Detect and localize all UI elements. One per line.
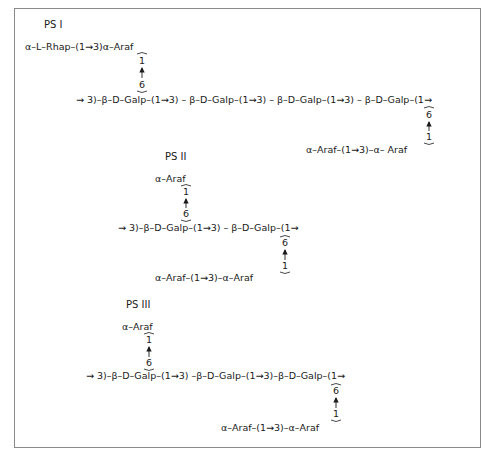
ps2-upper-from-position: 1 [183,186,189,197]
ps3-lower-from-position: 1 [333,408,339,419]
ps3-title: PS III [126,299,150,310]
ps3-lower-linkage: 6 1 [331,384,341,422]
bracket-icon [424,143,434,145]
ps1-upper-to-position: 6 [139,79,145,90]
ps3-upper-linkage: 1 6 [144,333,154,371]
structure-ps1: PS I α–L–Rhap–(1→3)α–Araf 1 6 → 3)–β–D–G… [25,19,434,155]
bracket-icon [331,420,341,422]
ps1-upper-branch: α–L–Rhap–(1→3)α–Araf [25,41,134,52]
bracket-icon [137,53,147,55]
ps1-lower-linkage: 6 1 [424,107,434,145]
ps2-lower-to-position: 6 [282,237,288,248]
ps1-title: PS I [44,19,63,30]
bracket-icon [424,107,434,109]
ps2-main-chain: → 3)–β–D–Galp–(1→3) – β–D–Galp–(1→ [118,222,298,233]
ps2-title: PS II [165,151,186,162]
ps3-upper-from-position: 1 [146,334,152,345]
ps2-lower-branch: α–Araf–(1→3)–α–Araf [155,272,254,283]
ps1-upper-linkage: 1 6 [137,53,147,93]
ps2-lower-from-position: 1 [282,260,288,271]
ps2-upper-branch: α–Araf [155,173,186,184]
bracket-icon [280,272,290,274]
ps1-lower-from-position: 1 [426,131,432,142]
bracket-icon [137,91,147,93]
ps3-upper-to-position: 6 [146,357,152,368]
ps1-upper-from-position: 1 [139,55,145,66]
ps1-lower-branch: α–Araf–(1→3)–α– Araf [306,144,408,155]
ps1-main-chain: → 3)–β–D–Galp–(1→3) – β–D–Galp–(1→3) – β… [76,94,432,105]
ps1-lower-to-position: 6 [426,109,432,120]
ps3-main-chain: → 3)–β–D–Galp–(1→3) –β–D–Galp–(1→3)–β–D–… [86,370,345,381]
ps2-upper-to-position: 6 [183,208,189,219]
ps3-lower-branch: α–Araf–(1→3)–α–Araf [221,422,320,433]
polysaccharide-structures-diagram: PS I α–L–Rhap–(1→3)α–Araf 1 6 → 3)–β–D–G… [0,0,496,467]
ps3-upper-branch: α–Araf [122,321,153,332]
structure-ps2: PS II α–Araf 1 6 → 3)–β–D–Galp–(1→3) – β… [118,151,298,283]
ps2-upper-linkage: 1 6 [181,185,191,222]
structure-ps3: PS III α–Araf 1 6 → 3)–β–D–Galp–(1→3) –β… [86,299,345,433]
ps3-lower-to-position: 6 [333,385,339,396]
ps2-lower-linkage: 6 1 [280,236,290,274]
